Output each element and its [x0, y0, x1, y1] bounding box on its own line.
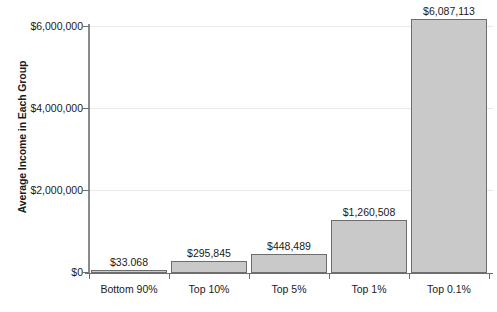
y-tick-mark [82, 272, 89, 273]
bar-slot: $33.068 [91, 0, 167, 273]
bar[interactable] [91, 270, 167, 273]
bar[interactable] [251, 254, 327, 273]
bar[interactable] [331, 220, 407, 273]
y-tick-label: $0 [5, 267, 83, 278]
x-category-label: Top 10% [169, 283, 249, 296]
y-tick-mark [82, 190, 89, 191]
x-category-label: Top 0.1% [409, 283, 489, 296]
bar-slot: $448,489 [251, 0, 327, 273]
y-tick-label: $4,000,000 [5, 103, 83, 114]
bar[interactable] [411, 19, 487, 273]
bar-chart: Average Income in Each Group $6,000,000 … [0, 0, 497, 312]
bar[interactable] [171, 261, 247, 273]
y-tick-mark [82, 26, 89, 27]
y-tick-mark [82, 108, 89, 109]
x-tick-mark [409, 273, 410, 279]
x-tick-mark [489, 273, 490, 279]
bar-slot: $295,845 [171, 0, 247, 273]
y-tick-label: $2,000,000 [5, 185, 83, 196]
x-tick-mark [89, 273, 90, 279]
x-category-label: Top 5% [249, 283, 329, 296]
x-category-label: Bottom 90% [89, 283, 169, 296]
bar-slot: $6,087,113 [411, 0, 487, 273]
x-category-label: Top 1% [329, 283, 409, 296]
bar-slot: $1,260,508 [331, 0, 407, 273]
y-tick-label: $6,000,000 [5, 21, 83, 32]
x-tick-mark [169, 273, 170, 279]
bar-value-label: $6,087,113 [381, 5, 497, 17]
bar-series: $33.068 $295,845 $448,489 $1,260,508 $6,… [89, 0, 493, 273]
x-tick-mark [249, 273, 250, 279]
x-tick-mark [329, 273, 330, 279]
